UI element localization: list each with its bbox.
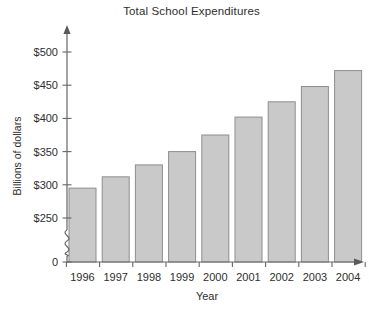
x-tick-labels: 199619971998199920002001200220032004 <box>70 271 360 283</box>
y-tick-label: $450 <box>34 79 58 91</box>
y-tick-labels: $500$450$400$350$300$2500 <box>34 46 58 268</box>
bar-1996 <box>69 188 96 262</box>
bar-chart: Total School Expenditures Billions of do… <box>0 0 369 309</box>
plot-area: $500$450$400$350$300$2500 19961997199819… <box>0 0 369 309</box>
x-tick-label-1996: 1996 <box>70 271 94 283</box>
bar-1997 <box>102 177 129 262</box>
x-tick-label-2004: 2004 <box>336 271 360 283</box>
x-tick-label-2000: 2000 <box>203 271 227 283</box>
x-tick-label-1999: 1999 <box>170 271 194 283</box>
bar-1999 <box>169 152 196 262</box>
x-tick-label-2003: 2003 <box>303 271 327 283</box>
y-tick-label: 0 <box>52 256 58 268</box>
bar-1998 <box>135 165 162 262</box>
bar-2003 <box>301 87 328 262</box>
axis-break-squiggle-icon <box>65 230 69 256</box>
bar-2004 <box>335 71 362 262</box>
bars-group <box>69 71 362 262</box>
y-axis-arrow-icon <box>63 25 70 34</box>
bar-2000 <box>202 135 229 262</box>
x-tick-label-2002: 2002 <box>269 271 293 283</box>
x-tick-label-1998: 1998 <box>137 271 161 283</box>
x-tick-label-2001: 2001 <box>236 271 260 283</box>
y-tick-label: $350 <box>34 146 58 158</box>
y-tick-label: $300 <box>34 179 58 191</box>
bar-2002 <box>268 102 295 262</box>
y-tick-label: $250 <box>34 212 58 224</box>
x-tick-label-1997: 1997 <box>103 271 127 283</box>
bar-2001 <box>235 117 262 262</box>
y-tick-label: $500 <box>34 46 58 58</box>
y-tick-label: $400 <box>34 112 58 124</box>
